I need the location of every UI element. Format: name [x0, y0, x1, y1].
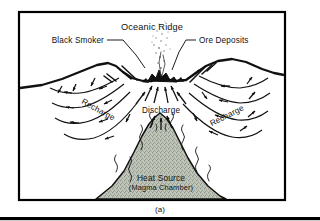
page-title: Oceanic Ridge: [121, 22, 183, 32]
label-magma-chamber: (Magma Chamber): [129, 183, 193, 192]
diagram-svg: Oceanic Ridge Black Smoker Ore Deposits …: [0, 0, 320, 221]
figure-container: Oceanic Ridge Black Smoker Ore Deposits …: [0, 0, 320, 221]
label-ore-deposits: Ore Deposits: [199, 36, 249, 45]
figure-caption: (a): [155, 205, 165, 214]
label-discharge: Discharge: [142, 106, 181, 115]
label-heat-source: Heat Source: [137, 173, 185, 183]
bottom-divider: [0, 217, 320, 220]
label-black-smoker: Black Smoker: [52, 36, 104, 45]
